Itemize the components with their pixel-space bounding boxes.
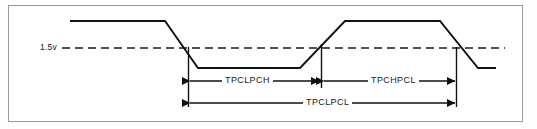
interval-label-tpclpcl: TPCLPCL [303,97,352,108]
timing-diagram-canvas [0,0,537,129]
clock-waveform [70,21,496,68]
interval-label-tpclpch: TPCLPCH [222,75,273,86]
timing-diagram-figure: 1.5v TPCLPCH TPCHPCL TPCLPCL [0,0,537,129]
threshold-voltage-label: 1.5v [37,42,60,53]
interval-label-tpchpcl: TPCHPCL [368,75,419,86]
